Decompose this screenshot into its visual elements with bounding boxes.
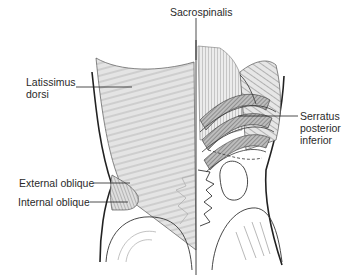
label-internal-oblique: Internal oblique [18, 196, 90, 208]
vertebrae [198, 170, 214, 226]
label-external-oblique: External oblique [19, 177, 94, 189]
label-sacrospinalis: Sacrospinalis [170, 6, 232, 18]
label-text: dorsi [26, 88, 76, 100]
label-text: posterior [300, 122, 341, 134]
label-text: inferior [300, 134, 341, 146]
kidney [220, 161, 248, 200]
label-text: Internal oblique [18, 196, 90, 208]
label-latissimus-dorsi: Latissimus dorsi [26, 76, 76, 100]
label-text: Sacrospinalis [170, 6, 232, 18]
anatomy-diagram: Sacrospinalis Latissimus dorsi Serratus … [0, 0, 356, 280]
label-text: Latissimus [26, 76, 76, 88]
label-serratus-posterior-inferior: Serratus posterior inferior [300, 110, 341, 146]
right-pelvis [212, 208, 282, 270]
label-text: Serratus [300, 110, 341, 122]
label-text: External oblique [19, 177, 94, 189]
